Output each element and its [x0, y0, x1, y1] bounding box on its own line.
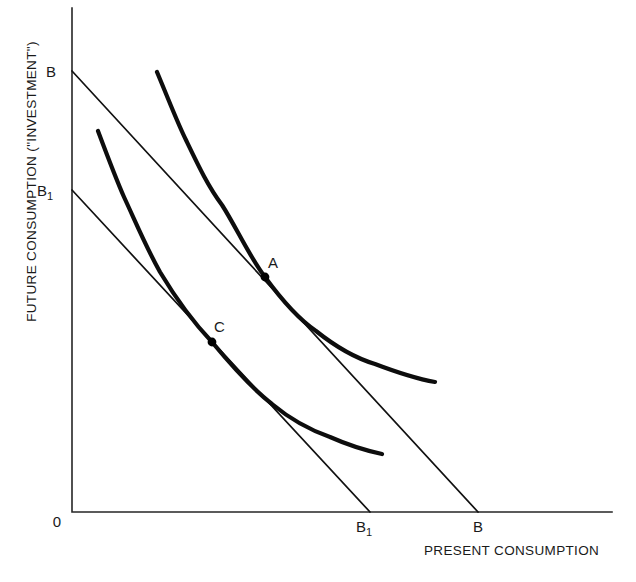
y-intercept-label-b1: B1 — [37, 182, 53, 202]
origin-label: 0 — [53, 513, 61, 530]
x-intercept-label-b1-base: B — [356, 518, 366, 535]
point-a-label: A — [268, 254, 278, 271]
point-c-label: C — [214, 318, 225, 335]
y-axis-title: FUTURE CONSUMPTION ("INVESTMENT") — [24, 32, 39, 332]
x-intercept-label-b: B — [473, 518, 483, 535]
x-axis-title: PRESENT CONSUMPTION — [424, 543, 599, 558]
x-intercept-label-b1-subscript: 1 — [366, 526, 372, 538]
x-intercept-label-b1: B1 — [356, 518, 372, 538]
economics-figure: A C B B1 0 B1 B FUTURE CONSUMPTION ("INV… — [0, 0, 636, 582]
indifference-curve-higher — [157, 72, 435, 382]
y-intercept-label-b: B — [46, 63, 56, 80]
point-c-dot — [208, 338, 217, 347]
point-a-dot — [261, 273, 270, 282]
y-intercept-label-b1-subscript: 1 — [47, 190, 53, 202]
indifference-curve-lower — [98, 131, 382, 454]
plot-canvas: A C B B1 0 B1 B — [0, 0, 636, 582]
